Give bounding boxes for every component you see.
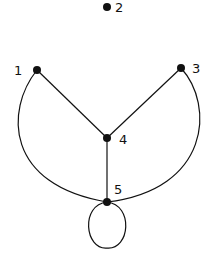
node-5 <box>103 198 111 206</box>
edge-3-4 <box>107 68 181 138</box>
graph-diagram: 1 2 3 4 5 <box>0 0 215 265</box>
node-1 <box>33 66 41 74</box>
node-label-5: 5 <box>114 183 122 196</box>
edge-1-5 <box>18 70 107 202</box>
node-label-4: 4 <box>119 133 127 146</box>
node-2 <box>103 3 111 11</box>
node-label-3: 3 <box>192 62 200 75</box>
edge-1-4 <box>37 70 107 138</box>
node-label-1: 1 <box>14 64 22 77</box>
node-4 <box>103 134 111 142</box>
graph-edges <box>0 0 215 265</box>
node-label-2: 2 <box>115 1 123 14</box>
edge-5-5-loop <box>89 202 126 248</box>
node-3 <box>177 64 185 72</box>
